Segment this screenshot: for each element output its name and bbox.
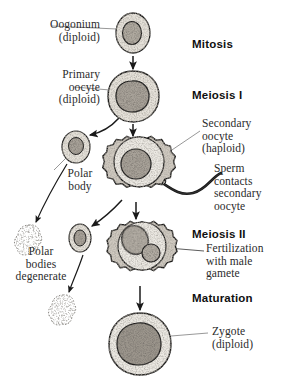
oogonium-cell (116, 13, 150, 53)
cell-label-primary-oocyte: Primary oocyte (diploid) (4, 68, 100, 106)
primary-oocyte-cell (108, 71, 159, 122)
stage-label-meiosis-i: Meiosis I (192, 89, 242, 101)
stage-label-mitosis: Mitosis (192, 38, 233, 50)
stage-label-meiosis-ii: Meiosis II (192, 228, 246, 240)
degenerate-blob-lower (48, 295, 75, 325)
stage-label-maturation: Maturation (192, 292, 253, 304)
oogenesis-diagram: Mitosis Meiosis I Meiosis II Maturation … (0, 0, 281, 381)
cell-label-fertilization: Fertilization with male gamete (206, 242, 281, 280)
cell-label-sperm-contacts: Sperm contacts secondary oocyte (214, 162, 281, 212)
cell-label-oogonium: Oogonium (diploid) (4, 18, 100, 43)
leader-zygote (171, 333, 208, 336)
cell-label-secondary-oocyte: Secondary oocyte (haploid) (202, 117, 281, 155)
polar-body-cell (62, 131, 90, 163)
secondary-oocyte-cell (103, 136, 176, 187)
cell-label-zygote: Zygote (diploid) (212, 325, 281, 350)
zygote-cell (109, 313, 171, 375)
cell-label-polar-body: Polar body (52, 167, 108, 192)
arrow-secondary-to-second-polar (92, 200, 122, 226)
arrow-primary-to-polar-body (90, 118, 119, 135)
cell-label-polar-bodies-degenerate: Polar bodies degenerate (0, 245, 82, 283)
fertilized-cell (107, 221, 177, 270)
